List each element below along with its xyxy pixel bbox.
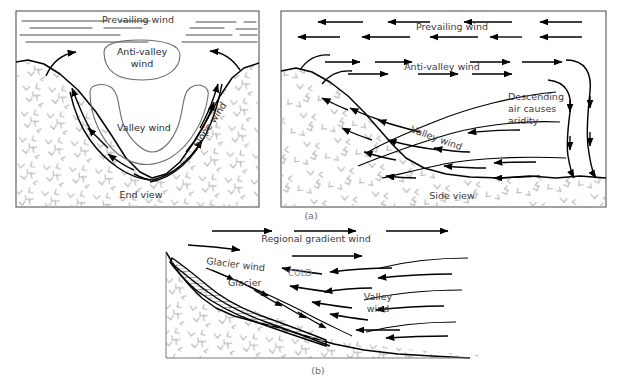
regional-gradient-wind-label: Regional gradient wind: [261, 233, 371, 244]
glacier-label: Glacier: [228, 277, 262, 288]
caption-a: (a): [304, 210, 317, 221]
descending-label-line1: Descending: [508, 91, 564, 102]
end-view-view-label: End view: [120, 189, 163, 200]
side-view-prevailing-wind-label: Prevailing wind: [416, 21, 488, 32]
panel-side-view: Prevailing wind Anti-valley wind Valley …: [281, 11, 606, 207]
glacier-panel-valley-wind-label-line2: wind: [367, 303, 389, 314]
glacier-panel-valley-wind-label-line1: Valley: [364, 291, 393, 302]
end-view-anti-valley-wind-label-line1: Anti-valley: [117, 46, 168, 57]
descending-label-line2: air causes: [508, 103, 556, 114]
cold-label: COLD: [288, 268, 312, 278]
figure-container: Prevailing wind Anti-valley wind Valley …: [0, 0, 622, 383]
panel-end-view: Prevailing wind Anti-valley wind Valley …: [16, 11, 259, 207]
side-view-view-label: Side view: [429, 190, 475, 201]
caption-b: (b): [311, 365, 324, 376]
wind-systems-diagram: Prevailing wind Anti-valley wind Valley …: [0, 0, 622, 383]
end-view-anti-valley-wind-label-line2: wind: [131, 58, 153, 69]
descending-label-line3: aridity: [508, 115, 539, 126]
end-view-valley-wind-label: Valley wind: [117, 122, 171, 133]
end-view-prevailing-wind-label: Prevailing wind: [102, 14, 174, 25]
side-view-anti-valley-wind-label: Anti-valley wind: [404, 61, 480, 72]
